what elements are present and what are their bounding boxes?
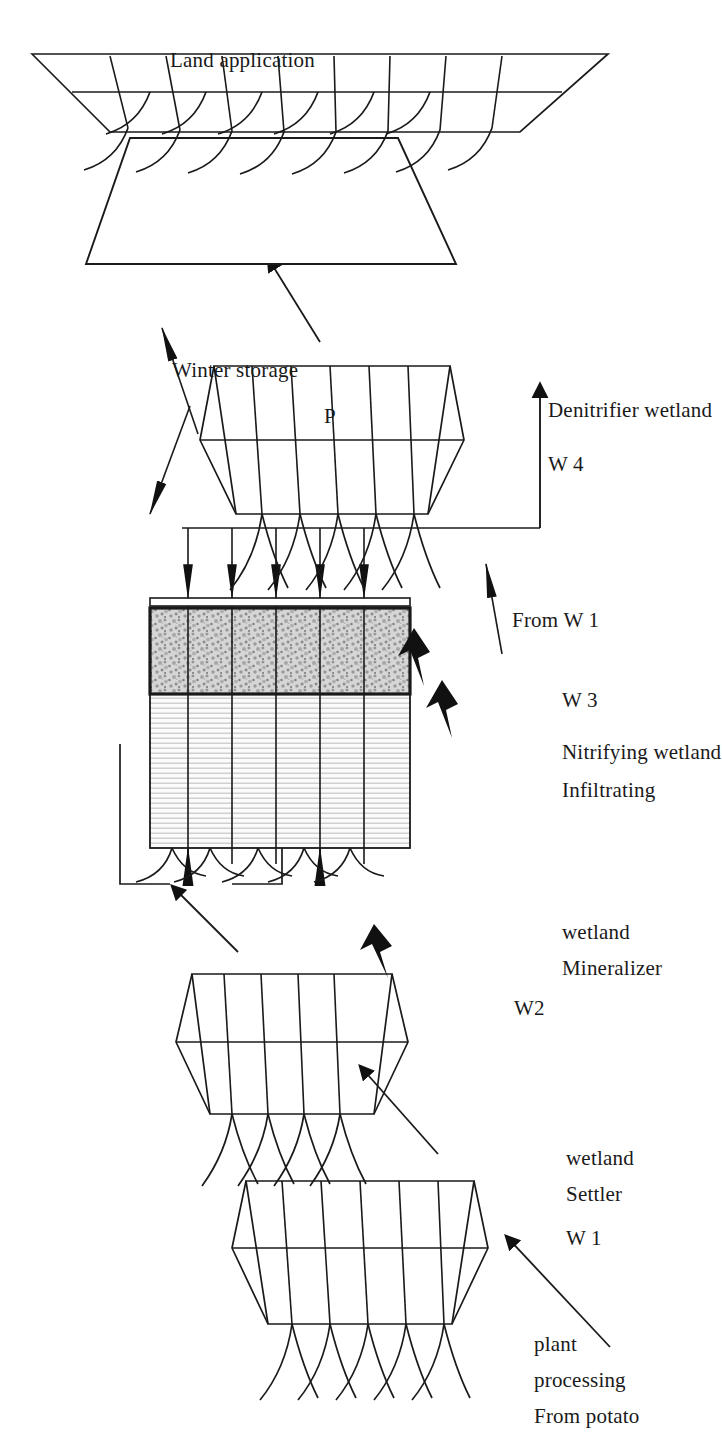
node-winter-storage <box>86 138 456 264</box>
label-w2-name-line2: wetland <box>562 920 630 945</box>
label-w3-code: W 3 <box>562 688 598 713</box>
flow-from-w1-to-w4 <box>486 564 502 654</box>
label-w1-name-line1: Settler <box>566 1182 622 1207</box>
label-land-application: Land application <box>170 48 315 73</box>
label-w1-code: W 1 <box>566 1226 602 1251</box>
flow-w3-to-w4 <box>370 384 540 528</box>
label-w3-name-line2: Nitrifying wetland <box>562 740 721 765</box>
node-w2-mineralizer-wetland <box>176 924 408 1186</box>
flow-w4-to-land-application <box>268 258 320 342</box>
diagram-svg <box>0 0 722 1444</box>
label-from-w1: From W 1 <box>512 608 599 633</box>
node-w4-denitrifier-wetland <box>200 366 464 590</box>
label-w2-name-line1: Mineralizer <box>562 956 662 981</box>
reeds-w3 <box>136 848 384 882</box>
label-w2-code: W2 <box>514 996 545 1021</box>
label-p-marker: P <box>324 404 336 429</box>
label-winter-storage: Winter storage <box>172 358 298 383</box>
label-w4-code: W 4 <box>548 452 584 477</box>
label-w1-name-line2: wetland <box>566 1146 634 1171</box>
label-w3-name-line1: Infiltrating <box>562 778 655 803</box>
flow-w2-thick-outlet <box>360 924 392 978</box>
reeds-w1 <box>260 1324 470 1400</box>
flow-w2-to-w3 <box>172 886 238 952</box>
figure-page: From potato processing plant W 1 Settler… <box>0 0 722 1444</box>
flow-w1-to-w2 <box>360 1066 438 1154</box>
diagram-canvas: From potato processing plant W 1 Settler… <box>0 0 722 1444</box>
node-w1-settler-wetland <box>232 1181 488 1400</box>
flow-plant-to-w1 <box>506 1236 610 1347</box>
reeds-w2 <box>202 1114 366 1186</box>
label-source-line2: processing <box>534 1368 626 1393</box>
flow-w4-to-winter-storage <box>150 406 190 514</box>
node-w3-infiltrating-nitrifying-wetland <box>120 528 458 884</box>
label-source-line1: From potato <box>534 1404 639 1429</box>
label-w4-name: Denitrifier wetland <box>548 398 712 423</box>
flow-w3-outlets <box>182 528 370 598</box>
label-source-line3: plant <box>534 1332 577 1357</box>
reeds-w4 <box>230 514 440 590</box>
